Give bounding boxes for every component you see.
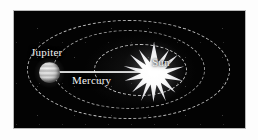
jupiter-sphere (39, 62, 60, 83)
label-mercury: Mercury (72, 74, 111, 86)
label-sun: Sun (152, 56, 170, 68)
diagram-frame: Jupiter Mercury Sun (13, 10, 246, 129)
sun-body (122, 40, 186, 104)
solar-system-diagram: Jupiter Mercury Sun (0, 0, 258, 140)
label-jupiter: Jupiter (31, 46, 62, 58)
jupiter-body (39, 62, 60, 83)
